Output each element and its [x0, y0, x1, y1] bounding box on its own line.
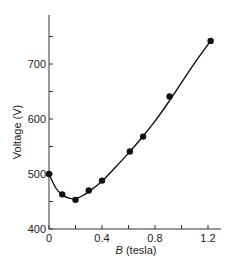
x-tick-label: 0	[46, 232, 52, 244]
y-tick-label: 700	[28, 58, 46, 70]
data-point	[46, 171, 52, 177]
data-point	[207, 38, 213, 44]
y-tick-label: 400	[28, 223, 46, 235]
voltage-vs-field-chart: 00.40.81.2400500600700 B (tesla) Voltage…	[0, 0, 233, 269]
data-point	[99, 177, 105, 183]
x-tick-label: 0.4	[94, 232, 109, 244]
x-axis-title: B (tesla)	[116, 244, 157, 256]
y-tick-label: 600	[28, 113, 46, 125]
data-point	[86, 187, 92, 193]
data-point	[72, 197, 78, 203]
y-tick-label: 500	[28, 168, 46, 180]
x-tick-label: 1.2	[200, 232, 215, 244]
fit-curve	[49, 41, 211, 199]
x-tick-label: 0.8	[147, 232, 162, 244]
data-points	[46, 38, 214, 203]
data-point	[59, 191, 65, 197]
data-point	[166, 93, 172, 99]
data-point	[140, 133, 146, 139]
ticks: 00.40.81.2400500600700	[28, 37, 216, 245]
fit-curve-path	[49, 41, 211, 199]
y-axis-title: Voltage (V)	[11, 105, 23, 159]
data-point	[127, 148, 133, 154]
